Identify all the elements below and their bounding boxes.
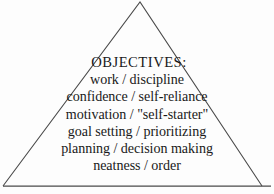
objective-item-5: planning / decision making — [0, 140, 274, 157]
objectives-triangle-figure: OBJECTIVES: work / discipline confidence… — [0, 0, 274, 194]
objectives-heading: OBJECTIVES: — [0, 54, 274, 71]
objective-item-3: motivation / "self-starter" — [0, 106, 274, 123]
objective-item-1: work / discipline — [0, 71, 274, 88]
objectives-text-block: OBJECTIVES: work / discipline confidence… — [0, 54, 274, 174]
objective-item-2: confidence / self-reliance — [0, 88, 274, 105]
objective-item-4: goal setting / prioritizing — [0, 123, 274, 140]
objective-item-6: neatness / order — [0, 157, 274, 174]
